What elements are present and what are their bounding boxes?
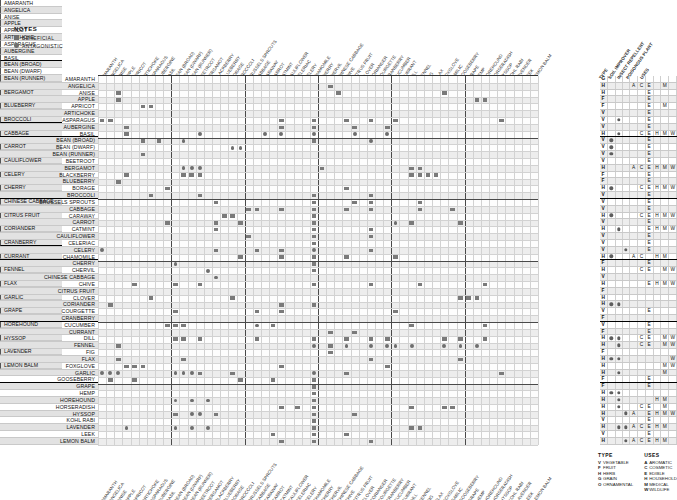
- beneficial-marker[interactable]: [312, 269, 317, 272]
- beneficial-marker[interactable]: [385, 126, 390, 129]
- row-label-left[interactable]: ARTICHOKE: [0, 110, 98, 117]
- antagonistic-marker[interactable]: [174, 426, 178, 430]
- beneficial-marker[interactable]: [149, 194, 154, 197]
- row-label-left[interactable]: FOXGLOVE: [0, 363, 98, 370]
- beneficial-marker[interactable]: [450, 406, 455, 409]
- row-label-left[interactable]: ANISE: [0, 90, 98, 97]
- row-label-left[interactable]: BEETROOT: [0, 158, 98, 165]
- row-label-left[interactable]: BRUSSELS SPROUTS: [0, 199, 98, 206]
- beneficial-marker[interactable]: [312, 440, 317, 443]
- beneficial-marker[interactable]: [279, 249, 284, 252]
- row-label-left[interactable]: APPLE: [0, 96, 98, 103]
- beneficial-marker[interactable]: [214, 221, 219, 224]
- beneficial-marker[interactable]: [409, 406, 414, 409]
- beneficial-marker[interactable]: [173, 310, 178, 313]
- beneficial-marker[interactable]: [124, 126, 129, 129]
- beneficial-marker[interactable]: [279, 208, 284, 211]
- row-label-left[interactable]: ASPARAGUS: [0, 117, 98, 124]
- row-label-left[interactable]: CARAWAY: [0, 213, 98, 220]
- beneficial-marker[interactable]: [312, 262, 317, 265]
- beneficial-marker[interactable]: [198, 283, 203, 286]
- row-label-left[interactable]: CAULIFLOWER: [0, 233, 98, 240]
- beneficial-marker[interactable]: [181, 337, 186, 340]
- beneficial-marker[interactable]: [458, 358, 463, 361]
- beneficial-marker[interactable]: [312, 201, 317, 204]
- row-label-left[interactable]: CELERY: [0, 247, 98, 254]
- antagonistic-marker[interactable]: [312, 371, 316, 375]
- antagonistic-marker[interactable]: [369, 139, 373, 143]
- beneficial-marker[interactable]: [328, 351, 333, 354]
- beneficial-marker[interactable]: [409, 221, 414, 224]
- row-label-left[interactable]: BEAN (BROAD): [0, 137, 98, 144]
- row-label-left[interactable]: CHIVE: [0, 281, 98, 288]
- beneficial-marker[interactable]: [312, 228, 317, 231]
- beneficial-marker[interactable]: [442, 91, 447, 94]
- beneficial-marker[interactable]: [475, 296, 480, 299]
- beneficial-marker[interactable]: [418, 173, 423, 176]
- beneficial-marker[interactable]: [328, 85, 333, 88]
- beneficial-marker[interactable]: [173, 337, 178, 340]
- antagonistic-marker[interactable]: [198, 412, 202, 416]
- beneficial-marker[interactable]: [312, 419, 317, 422]
- beneficial-marker[interactable]: [214, 201, 219, 204]
- beneficial-marker[interactable]: [369, 283, 374, 286]
- column-header-bottom[interactable]: LEMON BALM: [532, 476, 553, 500]
- beneficial-marker[interactable]: [198, 194, 203, 197]
- beneficial-marker[interactable]: [141, 139, 146, 142]
- row-label-left[interactable]: COURGETTE: [0, 308, 98, 315]
- beneficial-marker[interactable]: [312, 235, 317, 238]
- row-label-left[interactable]: ANGELICA: [0, 83, 98, 90]
- row-label-left[interactable]: BORAGE: [0, 185, 98, 192]
- beneficial-marker[interactable]: [352, 413, 357, 416]
- beneficial-marker[interactable]: [230, 372, 235, 375]
- beneficial-marker[interactable]: [312, 126, 317, 129]
- row-label-left[interactable]: HOREHOUND: [0, 397, 98, 404]
- beneficial-marker[interactable]: [181, 173, 186, 176]
- beneficial-marker[interactable]: [255, 249, 260, 252]
- beneficial-marker[interactable]: [279, 119, 284, 122]
- antagonistic-marker[interactable]: [312, 132, 316, 136]
- antagonistic-marker[interactable]: [394, 344, 398, 348]
- row-label-left[interactable]: HORSERADISH: [0, 404, 98, 411]
- beneficial-marker[interactable]: [124, 365, 129, 368]
- row-label-left[interactable]: BASIL: [0, 131, 98, 138]
- antagonistic-marker[interactable]: [353, 132, 357, 136]
- beneficial-marker[interactable]: [214, 228, 219, 231]
- beneficial-marker[interactable]: [173, 324, 178, 327]
- beneficial-marker[interactable]: [393, 119, 398, 122]
- beneficial-marker[interactable]: [344, 187, 349, 190]
- beneficial-marker[interactable]: [369, 208, 374, 211]
- row-label-left[interactable]: AMARANTH: [0, 76, 98, 83]
- beneficial-marker[interactable]: [393, 255, 398, 258]
- row-label-right[interactable]: BEAN (DWARF): [0, 68, 62, 75]
- beneficial-marker[interactable]: [409, 324, 414, 327]
- row-label-left[interactable]: CLOVER: [0, 295, 98, 302]
- beneficial-marker[interactable]: [214, 249, 219, 252]
- beneficial-marker[interactable]: [181, 324, 186, 327]
- beneficial-marker[interactable]: [238, 221, 243, 224]
- beneficial-marker[interactable]: [369, 228, 374, 231]
- beneficial-marker[interactable]: [116, 344, 121, 347]
- beneficial-marker[interactable]: [409, 173, 414, 176]
- beneficial-marker[interactable]: [255, 337, 260, 340]
- row-label-left[interactable]: FIG: [0, 349, 98, 356]
- row-label-left[interactable]: CUCUMBER: [0, 322, 98, 329]
- beneficial-marker[interactable]: [312, 433, 317, 436]
- beneficial-marker[interactable]: [344, 433, 349, 436]
- beneficial-marker[interactable]: [369, 194, 374, 197]
- row-label-left[interactable]: CABBAGE: [0, 206, 98, 213]
- row-label-right[interactable]: ANGELICA: [0, 7, 62, 14]
- beneficial-marker[interactable]: [295, 406, 300, 409]
- beneficial-marker[interactable]: [108, 378, 113, 381]
- row-label-left[interactable]: BROCCOLI: [0, 192, 98, 199]
- beneficial-marker[interactable]: [369, 337, 374, 340]
- beneficial-marker[interactable]: [124, 173, 129, 176]
- beneficial-marker[interactable]: [149, 105, 154, 108]
- row-label-left[interactable]: GOOSEBERRY: [0, 376, 98, 383]
- beneficial-marker[interactable]: [230, 214, 235, 217]
- beneficial-marker[interactable]: [385, 365, 390, 368]
- beneficial-marker[interactable]: [442, 337, 447, 340]
- beneficial-marker[interactable]: [434, 173, 439, 176]
- beneficial-marker[interactable]: [344, 372, 349, 375]
- antagonistic-marker[interactable]: [190, 371, 194, 375]
